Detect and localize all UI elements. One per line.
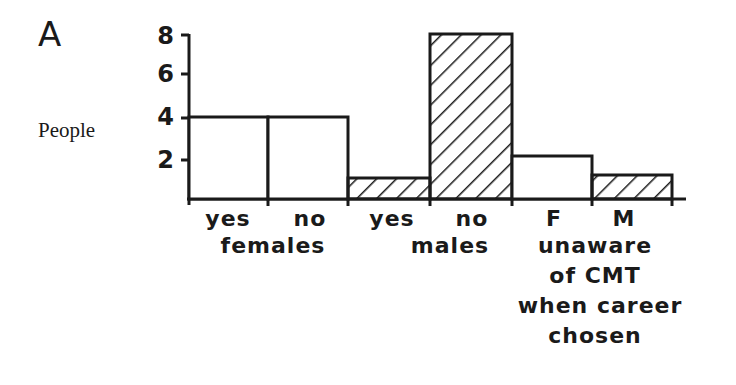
group-label-unaware-3: when career xyxy=(500,292,700,319)
group-label-males: males xyxy=(395,232,505,259)
bar-females-no xyxy=(268,117,348,199)
x-label-unaware-f: F xyxy=(534,205,574,232)
group-label-unaware-2: of CMT xyxy=(510,262,680,289)
bar-unaware-f xyxy=(512,156,592,199)
group-label-unaware-4: chosen xyxy=(510,322,680,349)
x-label-females-no: no xyxy=(280,205,340,232)
x-label-females-yes: yes xyxy=(198,205,258,232)
bar-males-yes xyxy=(348,178,430,199)
group-label-females: females xyxy=(208,232,338,259)
bar-females-yes xyxy=(189,117,268,199)
x-label-males-no: no xyxy=(442,205,502,232)
x-label-males-yes: yes xyxy=(362,205,422,232)
bar-unaware-m xyxy=(592,175,672,199)
bar-males-no xyxy=(430,34,512,199)
x-label-unaware-m: M xyxy=(604,205,644,232)
group-label-unaware-1: unaware xyxy=(510,232,680,259)
